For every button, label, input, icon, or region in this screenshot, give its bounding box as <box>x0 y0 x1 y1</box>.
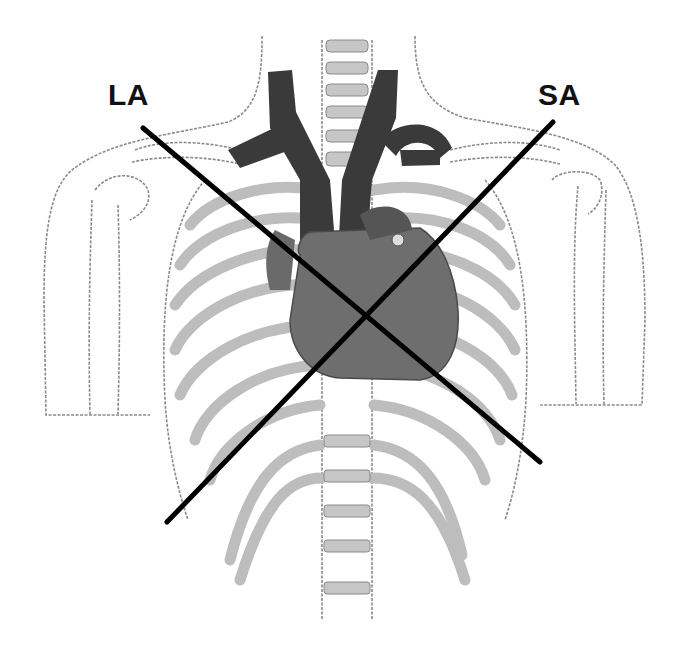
short-axis-label: SA <box>538 80 581 110</box>
ribcage-outline-right <box>485 180 527 520</box>
left-humerus-head <box>95 176 149 220</box>
neck-outline-right <box>415 36 465 118</box>
chest-anatomy-diagram: LA SA <box>0 0 686 659</box>
long-axis-label: LA <box>108 80 149 110</box>
left-clavicle <box>135 143 240 151</box>
long-axis-line <box>143 128 540 462</box>
anatomy-illustration <box>0 0 686 659</box>
neck-outline-left <box>228 36 262 122</box>
right-clavicle <box>450 143 560 151</box>
heart <box>266 207 458 380</box>
